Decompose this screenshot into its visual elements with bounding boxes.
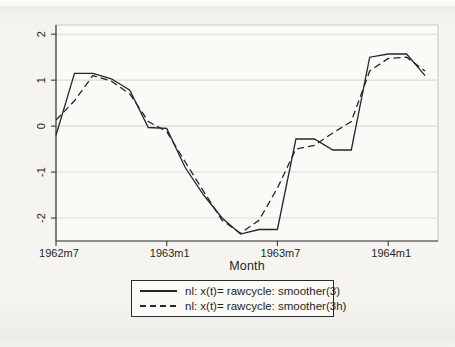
- y-tick-label: 2: [35, 31, 47, 37]
- x-axis-title: Month: [56, 259, 438, 273]
- dashed-line-sample: [140, 305, 177, 307]
- plot-border: [56, 25, 438, 241]
- x-tick-label: 1962m7: [39, 247, 79, 259]
- y-tick-label: -2: [35, 213, 47, 223]
- legend: nl: x(t)= rawcycle: smoother(3) nl: x(t)…: [131, 280, 334, 317]
- legend-item-smoother3h: nl: x(t)= rawcycle: smoother(3h): [140, 300, 327, 312]
- y-tick-label: -1: [35, 167, 47, 177]
- x-tick-label: 1963m1: [150, 247, 190, 259]
- x-tick-label: 1964m1: [371, 247, 411, 259]
- legend-item-smoother3: nl: x(t)= rawcycle: smoother(3): [140, 285, 327, 297]
- y-tick-label: 0: [35, 123, 47, 129]
- graph-page: -2-10121962m71963m11963m71964m1 Month nl…: [0, 0, 455, 347]
- legend-label-smoother3h: nl: x(t)= rawcycle: smoother(3h): [185, 300, 346, 312]
- legend-label-smoother3: nl: x(t)= rawcycle: smoother(3): [185, 285, 340, 297]
- x-tick-label: 1963m7: [261, 247, 301, 259]
- solid-line-sample: [140, 290, 177, 292]
- y-tick-label: 1: [35, 77, 47, 83]
